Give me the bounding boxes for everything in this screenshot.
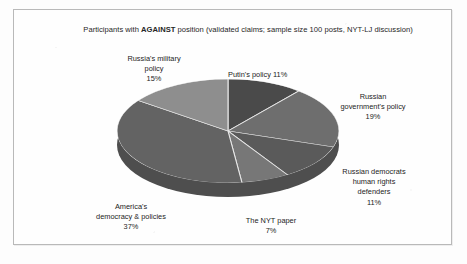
pie-label-russias-military-policy: Russia's military policy 15% — [102, 54, 206, 85]
chart-title-suffix: position (validated claims; sample size … — [175, 25, 412, 34]
chart-title: Participants with AGAINST position (vali… — [62, 24, 434, 36]
pie-label-russian-democrats-defenders: Russian democrats human rights defenders… — [314, 167, 434, 208]
pie-top-face — [117, 79, 339, 183]
chart-title-prefix: Participants with — [83, 25, 141, 34]
pie-label-americas-democracy-policies: America's democracy & policies 37% — [66, 202, 196, 233]
pie-slices — [117, 79, 339, 183]
pie-label-putins-policy: Putin's policy 11% — [228, 70, 332, 80]
chart-title-emphasis: AGAINST — [141, 25, 175, 34]
scanned-page: Participants with AGAINST position (vali… — [0, 0, 467, 264]
chart-frame: Participants with AGAINST position (vali… — [13, 9, 452, 245]
pie-chart — [117, 79, 339, 197]
pie-label-the-nyt-paper: The NYT paper 7% — [219, 216, 323, 236]
pie-label-russian-governments-policy: Russian government's policy 19% — [314, 92, 432, 123]
